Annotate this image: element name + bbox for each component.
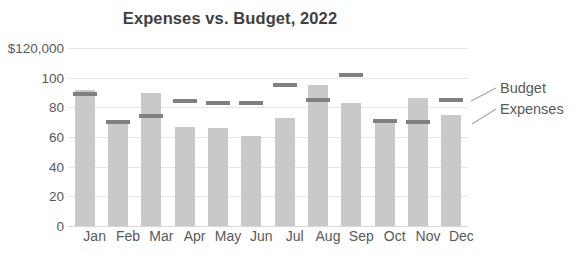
expenses-vs-budget-chart: Expenses vs. Budget, 2022 $120,000100806… (0, 0, 586, 261)
legend-leader-lines (0, 0, 586, 261)
